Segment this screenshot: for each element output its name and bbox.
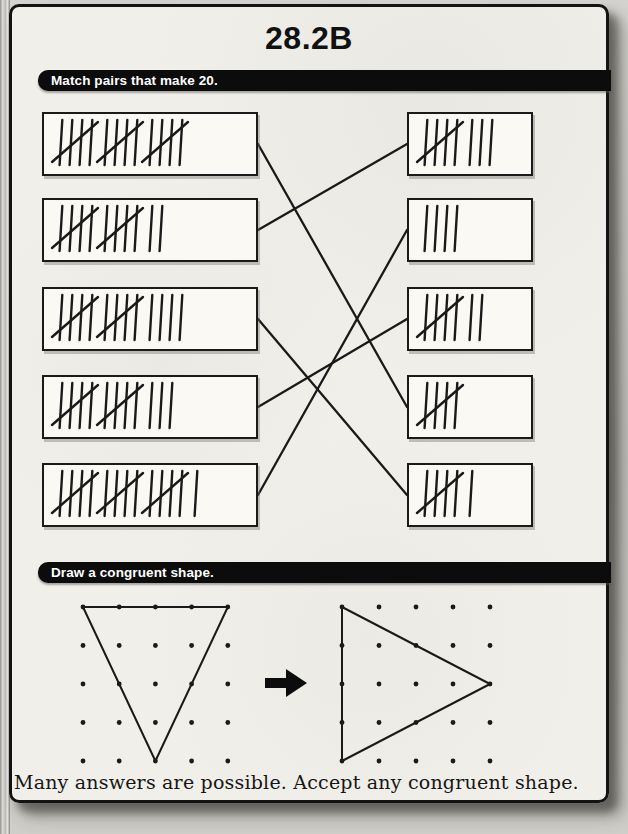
tally-stroke [60,471,63,516]
section-header-match: Match pairs that make 20. [38,70,611,91]
tally-stroke [170,471,173,516]
tally-stroke [470,471,473,516]
geoboard-dot [488,643,493,648]
geoboard-dot [340,643,345,648]
geoboard-dot [377,759,382,764]
tally-stroke [115,295,118,340]
tally-stroke [150,383,153,428]
geoboard-dot [451,643,456,648]
tally-stroke [115,120,118,165]
tally-stroke [435,120,438,165]
tally-stroke [105,120,108,165]
tally-stroke [105,383,108,428]
tally-box-right-1[interactable] [407,112,533,176]
tally-stroke [125,120,128,165]
section-header-congruent-label: Draw a congruent shape. [51,565,214,580]
geoboard-dot [225,720,230,725]
section-header-congruent: Draw a congruent shape. [38,562,611,583]
geoboard-dot [81,720,86,725]
geoboard-dot [451,759,456,764]
geoboard-dot [377,682,382,687]
geoboard-dot [488,759,493,764]
tally-box-right-3[interactable] [407,287,533,351]
tally-marks [44,289,256,349]
tally-stroke [445,295,448,340]
tally-stroke [470,120,473,165]
match-line [258,319,407,407]
geoboard-dot [189,643,194,648]
geoboard-dot [117,682,122,687]
tally-marks [409,114,531,174]
tally-stroke [160,295,163,340]
tally-marks [409,465,531,525]
geoboard-dot [225,759,230,764]
tally-box-right-2[interactable] [407,198,533,262]
section-header-match-label: Match pairs that make 20. [51,73,218,88]
tally-box-left-3[interactable] [42,287,258,351]
geoboard-dot [414,759,419,764]
geoboard-dot [340,720,345,725]
tally-stroke [115,471,118,516]
tally-stroke [60,120,63,165]
tally-marks [44,114,256,174]
tally-stroke [160,471,163,516]
tally-stroke [80,471,83,516]
geoboard-dot [414,643,419,648]
tally-stroke [70,206,73,251]
tally-stroke [60,383,63,428]
tally-stroke [80,206,83,251]
tally-stroke [160,383,163,428]
tally-box-left-4[interactable] [42,375,258,439]
geoboard-dot [225,682,230,687]
tally-stroke [445,206,448,251]
tally-stroke [125,206,128,251]
geoboard-dot [414,720,419,725]
tally-stroke [115,206,118,251]
tally-stroke [105,471,108,516]
tally-marks [409,289,531,349]
geoboard-dot [451,720,456,725]
page-title: 28.2B [9,20,609,57]
geoboard-dot [488,720,493,725]
tally-stroke [435,206,438,251]
geoboard-dot [189,682,194,687]
tally-stroke [80,383,83,428]
tally-stroke [470,295,473,340]
geoboard-dot [153,759,158,764]
geoboard-dot [153,720,158,725]
geoboard-dot [377,643,382,648]
geoboard-dot [117,759,122,764]
tally-box-left-5[interactable] [42,463,258,527]
tally-stroke [445,383,448,428]
tally-stroke [445,471,448,516]
example-triangle [83,607,228,761]
tally-marks [44,377,256,437]
tally-stroke [425,206,428,251]
tally-stroke [170,383,173,428]
tally-marks [409,377,531,437]
geoboard-dot [377,720,382,725]
geoboard-dot [414,605,419,610]
geoboard-dot [451,605,456,610]
tally-stroke [125,383,128,428]
tally-stroke [60,295,63,340]
geoboard-dot [189,720,194,725]
tally-stroke [480,295,483,340]
tally-stroke [105,295,108,340]
tally-stroke [150,471,153,516]
match-line [258,144,407,230]
geoboard-dot [225,605,230,610]
tally-box-left-1[interactable] [42,112,258,176]
tally-box-right-5[interactable] [407,463,533,527]
tally-marks [409,200,531,260]
worksheet-page: 28.2B Match pairs that make 20. Draw a c… [9,4,609,803]
tally-box-left-2[interactable] [42,198,258,262]
tally-stroke [160,120,163,165]
geoboard-dot [451,682,456,687]
tally-stroke [435,383,438,428]
tally-stroke [425,295,428,340]
geoboard-dot [81,605,86,610]
tally-marks [44,200,256,260]
tally-box-right-4[interactable] [407,375,533,439]
tally-stroke [455,206,458,251]
